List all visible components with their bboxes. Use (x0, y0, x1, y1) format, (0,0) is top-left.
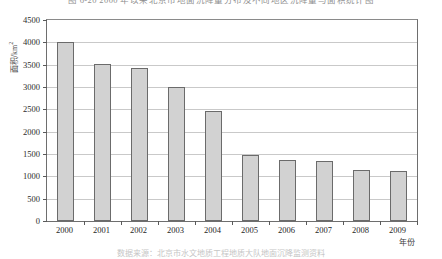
y-axis-tick-label: 2500 (23, 105, 40, 114)
y-axis-tick-label: 3000 (23, 83, 40, 92)
y-axis-tick-label: 4500 (23, 16, 40, 25)
bar (57, 42, 74, 221)
figure-top-caption: 图 6-20 2000 年以来北京市地面沉降量分布及不同地区沉降量与面积统计图 (0, 0, 442, 5)
y-axis-tick-label: 500 (27, 194, 40, 203)
figure-root: 图 6-20 2000 年以来北京市地面沉降量分布及不同地区沉降量与面积统计图 … (0, 0, 442, 259)
bar-series (47, 20, 417, 221)
bar (316, 161, 333, 221)
x-axis-tick-label: 2002 (119, 225, 159, 235)
y-axis-title: 面积/km2 (8, 29, 19, 87)
bar (390, 171, 407, 221)
y-axis-tick-label: 3500 (23, 60, 40, 69)
figure-bottom-caption: 数据来源：北京市水文地质工程地质大队地面沉降监测资料 (0, 249, 442, 259)
x-axis-tick-label: 2009 (378, 225, 418, 235)
x-axis-title: 年份 (399, 236, 415, 247)
bar (279, 160, 296, 221)
bar (242, 155, 259, 221)
y-axis-tick-label: 1000 (23, 172, 40, 181)
x-axis-tick-label: 2004 (193, 225, 233, 235)
x-axis-tick-label: 2005 (230, 225, 270, 235)
bar (168, 87, 185, 221)
x-axis-tick-label: 2006 (267, 225, 307, 235)
y-axis-tick-label: 4000 (23, 38, 40, 47)
y-axis-tick-label: 2000 (23, 127, 40, 136)
bar (205, 111, 222, 221)
bar (353, 170, 370, 221)
x-axis-tick-label: 2000 (45, 225, 85, 235)
y-axis-title-exponent: 2 (8, 42, 14, 45)
y-axis-tick (43, 221, 47, 222)
y-axis-tick-label: 1500 (23, 150, 40, 159)
y-axis-title-text: 面积/km (10, 45, 19, 73)
x-axis-tick-label: 2007 (304, 225, 344, 235)
y-axis-tick-label: 0 (36, 217, 40, 226)
x-axis-tick-label: 2008 (341, 225, 381, 235)
bar (94, 64, 111, 221)
bar (131, 68, 148, 221)
plot-area: 050010001500200025003000350040004500 (46, 19, 418, 222)
x-axis-tick-label: 2003 (156, 225, 196, 235)
x-axis-tick-label: 2001 (82, 225, 122, 235)
